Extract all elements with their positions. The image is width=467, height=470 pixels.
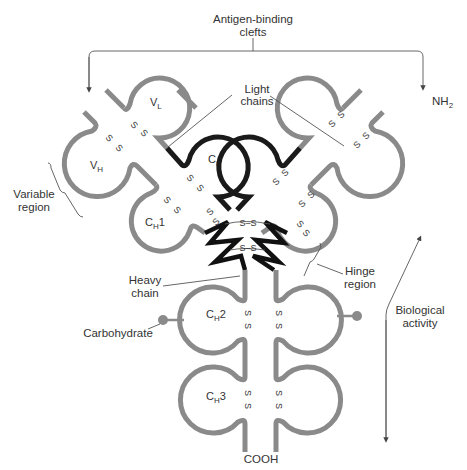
biological-activity-label: Biological activity [395,304,444,329]
svg-text:S: S [162,194,173,205]
svg-text:S: S [274,323,284,329]
svg-text:S: S [243,390,253,396]
nh2-label: NH2 [432,95,454,110]
biological-activity-arrow [386,238,420,440]
svg-text:S: S [185,172,196,183]
svg-text:S: S [243,310,253,316]
variable-region-label: Variable region [13,163,83,217]
domain-ch3: CH3 [206,390,226,405]
domain-ch2: CH2 [206,308,226,323]
antigen-binding-clefts-label: Antigen-binding clefts [213,13,293,38]
antibody-structure-diagram: Antigen-binding clefts S S S S S [0,0,467,470]
svg-text:S: S [274,310,284,316]
svg-text:activity: activity [402,317,437,329]
svg-text:S: S [295,218,306,229]
svg-text:S–S: S–S [239,218,256,228]
svg-text:region: region [18,201,50,213]
svg-text:S: S [274,390,284,396]
svg-text:S: S [335,109,346,120]
svg-text:S: S [243,403,253,409]
fc-region [180,270,342,452]
svg-text:S: S [326,118,337,129]
svg-text:Light: Light [245,83,271,95]
svg-text:Biological: Biological [395,304,444,316]
svg-text:Hinge: Hinge [345,265,375,277]
svg-text:S: S [270,176,281,187]
svg-text:S: S [274,403,284,409]
title-line-2: clefts [240,26,267,38]
svg-text:S: S [360,130,371,141]
svg-text:S: S [279,167,290,178]
svg-text:S–S: S–S [239,243,256,253]
svg-text:Heavy: Heavy [129,274,162,286]
svg-text:S: S [195,182,206,193]
svg-text:S: S [172,204,183,215]
domain-ch1-left: CH1 [145,216,165,231]
svg-text:S: S [129,119,140,130]
carbohydrate-label: Carbohydrate [83,324,160,339]
svg-text:S: S [243,323,253,329]
svg-text:Variable: Variable [13,188,54,200]
svg-text:chains: chains [240,95,273,107]
title-line-1: Antigen-binding [213,13,293,25]
svg-text:S: S [139,127,150,138]
svg-text:region: region [344,278,376,290]
svg-text:S: S [351,139,362,150]
svg-text:S: S [114,142,125,153]
svg-text:Carbohydrate: Carbohydrate [83,327,153,339]
svg-text:chain: chain [131,287,159,299]
svg-text:S: S [296,198,307,209]
domain-vl-left: VL [150,96,162,111]
svg-text:S: S [104,132,115,143]
domain-vh-left: VH [90,159,103,174]
svg-text:S: S [301,227,312,238]
cooh-label: COOH [244,453,279,465]
